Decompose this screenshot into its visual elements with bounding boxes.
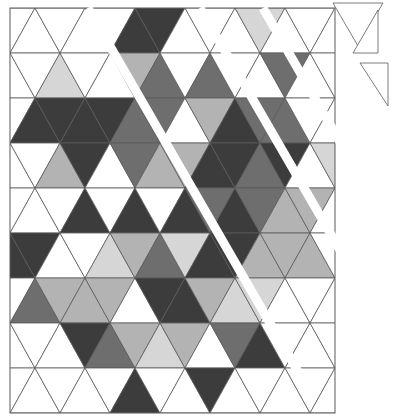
triangle-cell — [0, 143, 10, 188]
triangle-cell — [0, 8, 10, 53]
triangle-cell — [0, 278, 10, 323]
triangle-cell — [0, 53, 10, 98]
triangle-cell — [0, 233, 10, 278]
triangle-grid-canvas — [0, 0, 393, 419]
triangle-cell — [0, 323, 10, 368]
triangle-cell — [0, 188, 10, 233]
triangle-puzzle — [0, 0, 393, 419]
triangle-cell — [0, 368, 10, 413]
triangle-cells — [0, 8, 385, 413]
triangle-cell — [0, 98, 10, 143]
